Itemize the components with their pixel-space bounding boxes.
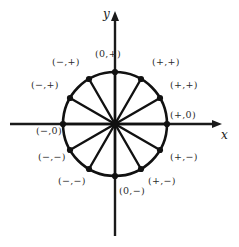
label-upper-right-inner: (+,+) — [170, 80, 198, 90]
point-150 — [67, 95, 73, 101]
circle-diagram-canvas — [0, 0, 239, 247]
x-axis-label: x — [221, 129, 228, 141]
arrow-up-icon — [111, 11, 119, 21]
point-240 — [86, 166, 92, 172]
point-120 — [86, 76, 92, 82]
point-000 — [164, 121, 170, 127]
label-lower-right-outer: (+,−) — [148, 176, 176, 186]
point-300 — [138, 166, 144, 172]
label-bottom: (0,−) — [119, 186, 145, 196]
arrow-right-icon — [212, 120, 222, 128]
label-upper-left-outer: (−,+) — [52, 57, 80, 67]
label-upper-left-inner: (−,+) — [31, 80, 59, 90]
point-270 — [112, 173, 118, 179]
point-210 — [67, 147, 73, 153]
label-left: (−,0) — [36, 126, 62, 136]
label-lower-left-outer: (−,−) — [58, 176, 86, 186]
point-330 — [157, 147, 163, 153]
origin-point — [112, 121, 119, 128]
y-axis-label: y — [103, 8, 110, 20]
unit-circle-figure: x y (0,+) (+,+) (+,+) (+,0) (+,−) (+,−) … — [0, 0, 239, 247]
point-030 — [157, 95, 163, 101]
label-lower-right-inner: (+,−) — [170, 152, 198, 162]
point-090 — [112, 69, 118, 75]
label-upper-right-outer: (+,+) — [152, 57, 180, 67]
label-lower-left-inner: (−,−) — [38, 152, 66, 162]
label-right: (+,0) — [170, 110, 196, 120]
label-top: (0,+) — [95, 49, 121, 59]
point-060 — [138, 76, 144, 82]
